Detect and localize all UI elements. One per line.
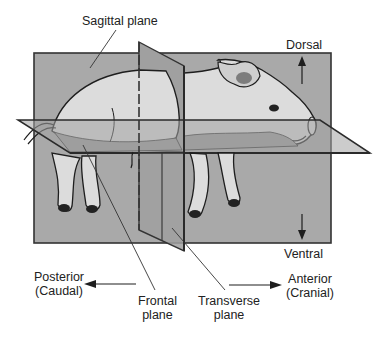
ventral-label: Ventral: [284, 247, 323, 261]
posterior-arrow-icon: [84, 280, 96, 288]
pig-ear-shading: [236, 72, 252, 84]
transverse-plane-label: Transverse plane: [198, 294, 260, 322]
frontal-plane: [18, 120, 370, 153]
pig-hoof-3: [189, 210, 201, 218]
anterior-label: Anterior (Cranial): [286, 272, 334, 300]
transverse-label-line2: plane: [198, 308, 260, 322]
pig-hoof-2: [86, 205, 98, 213]
frontal-label-line2: plane: [138, 308, 177, 322]
pig-hoof-4: [228, 199, 240, 207]
anterior-arrow-icon: [270, 281, 282, 289]
dorsal-label: Dorsal: [286, 38, 322, 52]
posterior-label-line2: (Caudal): [34, 284, 84, 298]
pig-hoof-1: [58, 204, 70, 212]
posterior-label: Posterior (Caudal): [34, 270, 84, 298]
sagittal-plane-label: Sagittal plane: [82, 14, 158, 28]
pig-eye: [269, 105, 279, 112]
posterior-label-line1: Posterior: [34, 270, 84, 284]
anterior-label-line2: (Cranial): [286, 286, 334, 300]
transverse-label-line1: Transverse: [198, 294, 260, 308]
anterior-label-line1: Anterior: [286, 272, 334, 286]
frontal-plane-label: Frontal plane: [138, 294, 177, 322]
frontal-label-line1: Frontal: [138, 294, 177, 308]
